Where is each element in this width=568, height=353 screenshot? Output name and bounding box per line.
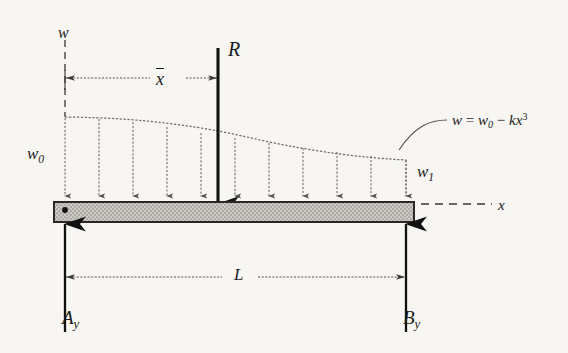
reaction-left-label: Ay bbox=[62, 308, 79, 331]
diagram-canvas bbox=[0, 0, 568, 353]
Ay-subscript: y bbox=[74, 316, 80, 331]
equation-leader-line bbox=[399, 120, 447, 150]
reaction-right-label: By bbox=[403, 308, 420, 331]
centroid-distance-text: x bbox=[156, 68, 164, 88]
x-axis-label: x bbox=[498, 198, 505, 213]
By-subscript: y bbox=[415, 316, 421, 331]
equation-minus: − bbox=[497, 112, 505, 128]
beam-body bbox=[54, 202, 414, 222]
span-length-label: L bbox=[234, 266, 243, 283]
load-axis-label: w bbox=[58, 25, 69, 41]
load-intensity-left-label: w0 bbox=[27, 145, 44, 165]
Ay-base: A bbox=[62, 307, 74, 328]
load-function-equation: w = w0 − kx3 bbox=[452, 112, 527, 131]
equation-lhs: w bbox=[452, 112, 462, 128]
By-base: B bbox=[403, 307, 415, 328]
equation-k: k bbox=[509, 112, 516, 128]
equation-equals: = bbox=[466, 112, 474, 128]
beam-load-diagram: w R x w0 w1 w = w0 − kx3 x L Ay By bbox=[0, 0, 568, 353]
load-intensity-right-label: w1 bbox=[417, 163, 434, 183]
equation-w0-subscript: 0 bbox=[488, 119, 493, 130]
distributed-load-arrows bbox=[65, 118, 406, 196]
w0-subscript: 0 bbox=[38, 153, 44, 166]
equation-w0: w bbox=[478, 112, 488, 128]
equation-exponent: 3 bbox=[522, 111, 527, 122]
resultant-force-label: R bbox=[228, 39, 240, 59]
w0-base: w bbox=[27, 144, 38, 163]
pin-support-dot bbox=[62, 207, 68, 213]
w1-subscript: 1 bbox=[428, 171, 434, 184]
centroid-distance-label: x bbox=[156, 68, 164, 88]
w1-base: w bbox=[417, 162, 428, 181]
